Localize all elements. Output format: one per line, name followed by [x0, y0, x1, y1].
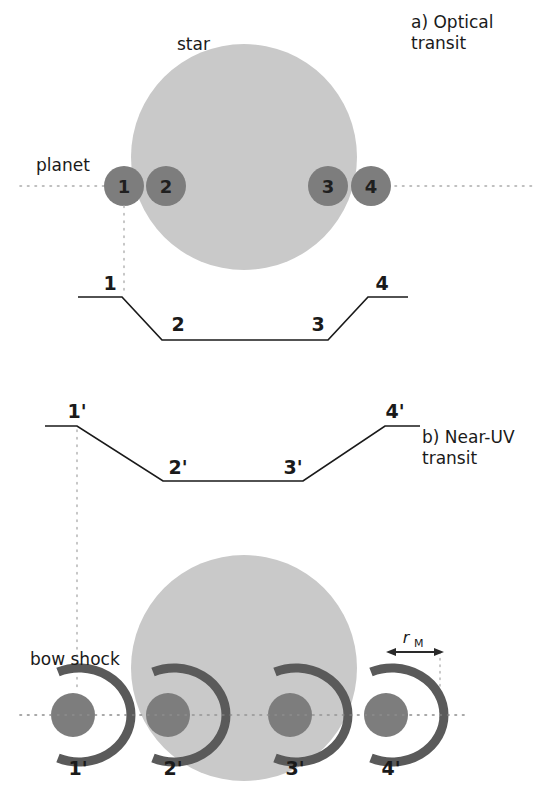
- panel-a-group: 1 2 3 4 star planet a) Optical transit 1…: [20, 12, 534, 340]
- star-label: star: [177, 34, 210, 54]
- nearuv-curve-label-3p: 3': [283, 456, 302, 478]
- planet-contact-label-4p: 4': [381, 757, 400, 779]
- nearuv-curve-label-1p: 1': [67, 400, 86, 422]
- optical-curve-label-3: 3: [311, 313, 324, 335]
- optical-light-curve: [78, 297, 408, 340]
- planet-contact-label-2p: 2': [163, 757, 182, 779]
- nearuv-light-curve: [45, 426, 420, 481]
- bow-shock-label: bow shock: [30, 649, 120, 669]
- magnetosphere-radius-label: r: [403, 628, 411, 647]
- planet-contact-label-1p: 1': [68, 757, 87, 779]
- planet-contact-2p: [146, 693, 190, 737]
- nearuv-curve-label-4p: 4': [385, 400, 404, 422]
- planet-contact-label-3: 3: [322, 176, 335, 197]
- star-disc-a: [131, 44, 357, 270]
- panel-a-title-line1: a) Optical: [411, 12, 494, 32]
- planet-label: planet: [36, 155, 90, 175]
- optical-curve-label-1: 1: [103, 272, 116, 294]
- panel-b-title-line2: transit: [422, 448, 477, 468]
- transit-geometry-figure: 1 2 3 4 star planet a) Optical transit 1…: [0, 0, 554, 801]
- panel-b-group: 1' 2' 3' 4' b) Near-UV transit r M: [20, 400, 515, 781]
- optical-curve-label-2: 2: [171, 313, 184, 335]
- planet-contact-label-2: 2: [160, 176, 173, 197]
- planet-contact-4p: [364, 693, 408, 737]
- planet-contact-label-4: 4: [365, 176, 378, 197]
- optical-curve-label-4: 4: [375, 272, 388, 294]
- nearuv-curve-label-2p: 2': [168, 456, 187, 478]
- planet-contact-label-3p: 3': [285, 757, 304, 779]
- planet-contact-label-1: 1: [118, 176, 131, 197]
- magnetosphere-radius-subscript: M: [414, 637, 424, 650]
- panel-b-title-line1: b) Near-UV: [422, 427, 515, 447]
- panel-a-title-line2: transit: [411, 33, 466, 53]
